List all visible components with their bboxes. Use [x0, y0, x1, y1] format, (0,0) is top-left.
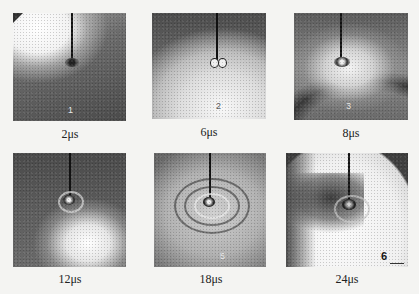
electrode-tip — [65, 58, 79, 67]
frame-corner-shadow — [13, 13, 23, 23]
photo-frame-2: 2 — [152, 13, 266, 119]
electrode-tip — [342, 199, 356, 210]
photo-frame-5: 5 — [154, 153, 266, 267]
frame-caption-2: 6μs — [152, 125, 266, 140]
bubble-right — [218, 58, 227, 68]
scale-bar — [390, 263, 404, 264]
frame-caption-4: 12μs — [13, 272, 127, 287]
photo-frame-1: 1 — [13, 13, 126, 121]
frame-number: 2 — [216, 101, 221, 111]
frame-caption-1: 2μs — [13, 127, 127, 142]
frame-number: 6 — [381, 250, 387, 262]
frame-number: 3 — [346, 101, 351, 111]
frame-caption-6: 24μs — [290, 272, 404, 287]
frame-number: 1 — [68, 105, 73, 115]
frame-number: 5 — [220, 251, 225, 261]
electrode-wire — [340, 13, 342, 63]
photo-frame-6: 6 — [286, 153, 408, 267]
frame-caption-3: 8μs — [294, 126, 408, 141]
electrode-tip — [334, 57, 350, 67]
frame-caption-5: 18μs — [154, 272, 268, 287]
electrode-wire — [216, 13, 218, 63]
electrode-tip — [203, 197, 215, 207]
electrode-wire — [71, 13, 73, 63]
electrode-tip — [63, 195, 75, 205]
photo-frame-4 — [13, 153, 126, 267]
photo-frame-3: 3 — [294, 13, 408, 120]
